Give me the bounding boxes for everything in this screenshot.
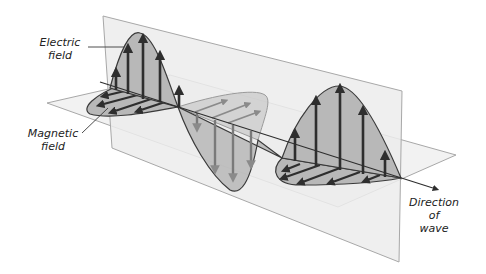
magnetic-field-label-line2: field <box>18 140 88 153</box>
electric-field-label: Electric field <box>30 36 90 62</box>
electric-field-label-line1: Electric <box>30 36 90 49</box>
magnetic-field-label: Magnetic field <box>18 127 88 153</box>
electric-field-label-line2: field <box>30 49 90 62</box>
direction-label-line3: wave <box>404 222 464 235</box>
direction-label-line2: of <box>404 209 464 222</box>
direction-of-wave-label: Direction of wave <box>404 196 464 235</box>
magnetic-field-label-line1: Magnetic <box>18 127 88 140</box>
direction-label-line1: Direction <box>404 196 464 209</box>
